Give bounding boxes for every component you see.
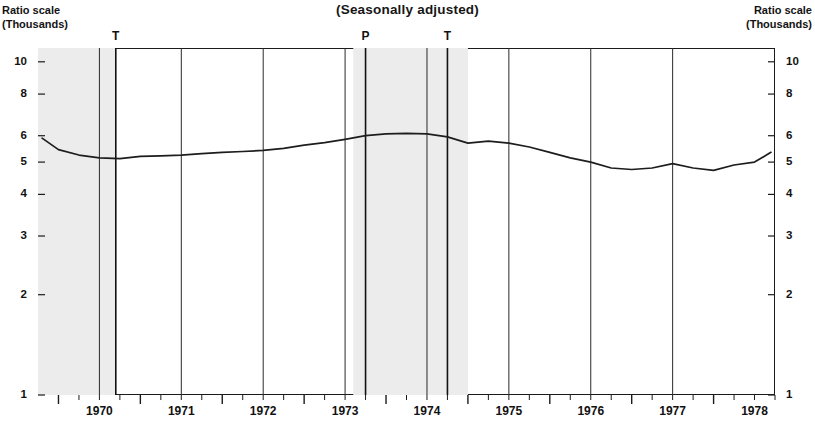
y-axis-label-left-10: 10: [5, 56, 27, 68]
recession-bands: [38, 48, 468, 395]
y-axis-label-left-1: 1: [5, 389, 27, 401]
x-axis-label-1978: 1978: [717, 404, 793, 418]
y-axis-label-right-5: 5: [786, 156, 810, 168]
y-axis-label-left-3: 3: [5, 230, 27, 242]
y-axis-label-right-6: 6: [786, 130, 810, 142]
recession-band-1: [353, 48, 468, 395]
cycle-marker-label-trough-1975: T: [438, 29, 456, 43]
x-axis-label-1977: 1977: [635, 404, 711, 418]
x-axis-label-1973: 1973: [307, 404, 383, 418]
y-axis-label-left-6: 6: [5, 130, 27, 142]
recession-band-0: [38, 48, 116, 395]
chart-canvas: [0, 0, 815, 426]
x-axis-label-1975: 1975: [471, 404, 547, 418]
x-axis-label-1976: 1976: [553, 404, 629, 418]
cycle-marker-label-trough-1970: T: [107, 29, 125, 43]
y-axis-label-right-2: 2: [786, 289, 810, 301]
x-axis-label-1970: 1970: [61, 404, 137, 418]
x-axis-label-1972: 1972: [225, 404, 301, 418]
x-axis-label-1974: 1974: [389, 404, 465, 418]
y-axis-label-right-4: 4: [786, 188, 810, 200]
cycle-marker-label-peak-1973: P: [357, 29, 375, 43]
y-axis-label-right-8: 8: [786, 88, 810, 100]
y-axis-label-right-10: 10: [786, 56, 810, 68]
y-axis-label-right-3: 3: [786, 230, 810, 242]
y-axis-label-right-1: 1: [786, 389, 810, 401]
y-axis-label-left-2: 2: [5, 289, 27, 301]
y-axis-label-left-8: 8: [5, 88, 27, 100]
chart-page: (Seasonally adjusted) Ratio scale (Thous…: [0, 0, 815, 426]
y-axis-label-left-5: 5: [5, 156, 27, 168]
x-axis-label-1971: 1971: [143, 404, 219, 418]
y-axis-label-left-4: 4: [5, 188, 27, 200]
